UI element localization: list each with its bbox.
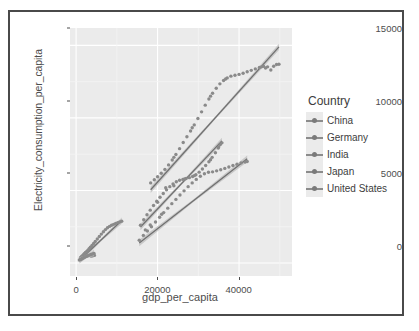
legend-item-label: Japan — [327, 166, 354, 177]
legend-item-germany[interactable]: Germany — [306, 129, 402, 146]
legend-key-icon — [306, 112, 323, 129]
plot-panel — [70, 28, 292, 276]
legend-item-india[interactable]: India — [306, 146, 402, 163]
screenshot-root: Electricity_consumption_per_capita gdp_p… — [0, 0, 419, 331]
series-germany — [138, 156, 249, 247]
legend-item-label: India — [327, 149, 349, 160]
x-tick-mark — [157, 277, 158, 280]
image-frame: Electricity_consumption_per_capita gdp_p… — [8, 10, 404, 316]
x-tick-label: 0 — [46, 284, 106, 295]
legend-item-china[interactable]: China — [306, 112, 402, 129]
legend-item-label: China — [327, 115, 353, 126]
legend-key-icon — [306, 129, 323, 146]
legend-item-japan[interactable]: Japan — [306, 163, 402, 180]
y-tick-label: 15000 — [348, 23, 402, 34]
legend-key-icon — [306, 163, 323, 180]
legend-item-united-states[interactable]: United States — [306, 180, 402, 197]
x-tick-mark — [239, 277, 240, 280]
legend-item-label: United States — [327, 183, 387, 194]
legend-item-label: Germany — [327, 132, 368, 143]
x-tick-mark — [76, 277, 77, 280]
legend: Country China Germany India Japan — [306, 94, 402, 197]
chart-figure: Electricity_consumption_per_capita gdp_p… — [10, 12, 402, 314]
y-tick-label: 0 — [348, 240, 402, 251]
y-axis-title: Electricity_consumption_per_capita — [32, 30, 44, 230]
legend-title: Country — [308, 94, 402, 108]
legend-key-icon — [306, 146, 323, 163]
legend-key-icon — [306, 180, 323, 197]
scatter-plot-svg — [70, 28, 292, 276]
x-tick-label: 40000 — [209, 284, 269, 295]
x-tick-label: 20000 — [127, 284, 187, 295]
